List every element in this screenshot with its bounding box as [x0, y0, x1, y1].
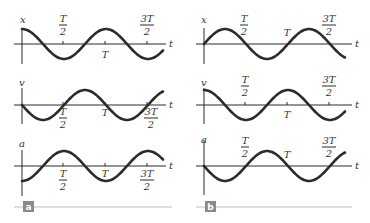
svg-text:v: v: [201, 77, 207, 88]
svg-text:T: T: [60, 13, 68, 24]
svg-text:T: T: [284, 27, 292, 38]
panel-a-label: a: [25, 202, 31, 212]
svg-text:2: 2: [240, 26, 247, 37]
graph-b-position: x t T2 T 3T2: [196, 13, 360, 64]
svg-text:x: x: [201, 14, 207, 25]
svg-text:3T: 3T: [140, 168, 154, 179]
graph-b-velocity: v t T2 T 3T2: [196, 74, 360, 124]
svg-text:2: 2: [59, 26, 66, 37]
svg-text:t: t: [355, 160, 360, 171]
svg-text:t: t: [355, 99, 360, 110]
svg-text:T: T: [102, 49, 110, 60]
svg-text:2: 2: [241, 87, 248, 98]
svg-text:3T: 3T: [322, 13, 336, 24]
svg-text:T: T: [284, 109, 292, 120]
svg-text:t: t: [169, 99, 174, 110]
svg-text:T: T: [60, 168, 68, 179]
oscillation-diagram: x t T2 T 3T2 v t T2 T 3T2 a t T2 T: [0, 0, 370, 223]
svg-text:a: a: [201, 134, 207, 145]
svg-text:2: 2: [325, 87, 332, 98]
svg-text:2: 2: [325, 26, 332, 37]
svg-text:2: 2: [241, 148, 248, 159]
svg-text:2: 2: [59, 119, 66, 130]
panel-a: x t T2 T 3T2 v t T2 T 3T2 a t T2 T: [14, 13, 174, 212]
svg-text:T: T: [242, 74, 250, 85]
t-label: t: [169, 38, 174, 49]
svg-text:2: 2: [143, 26, 150, 37]
svg-text:T: T: [284, 149, 292, 160]
graph-a-position: x t T2 T 3T2: [14, 13, 174, 64]
graph-a-velocity: v t T2 T 3T2: [14, 77, 174, 130]
svg-text:2: 2: [325, 148, 332, 159]
svg-text:a: a: [19, 138, 25, 149]
svg-text:3T: 3T: [322, 135, 336, 146]
panel-b-label: b: [207, 202, 214, 212]
svg-text:T: T: [242, 135, 250, 146]
svg-text:t: t: [169, 160, 174, 171]
svg-text:3T: 3T: [322, 74, 336, 85]
svg-text:T: T: [102, 168, 110, 179]
panel-b: x t T2 T 3T2 v t T2 T 3T2 a t T2 T 3T2: [196, 13, 360, 212]
svg-text:t: t: [355, 38, 360, 49]
graph-a-acceleration: a t T2 T 3T2: [14, 138, 174, 196]
svg-text:2: 2: [143, 181, 150, 192]
svg-text:v: v: [19, 77, 25, 88]
y-label: x: [20, 14, 26, 25]
svg-text:2: 2: [147, 119, 154, 130]
graph-b-acceleration: a t T2 T 3T2: [196, 134, 360, 195]
svg-text:3T: 3T: [140, 13, 154, 24]
svg-text:2: 2: [59, 181, 66, 192]
svg-text:T: T: [241, 13, 249, 24]
